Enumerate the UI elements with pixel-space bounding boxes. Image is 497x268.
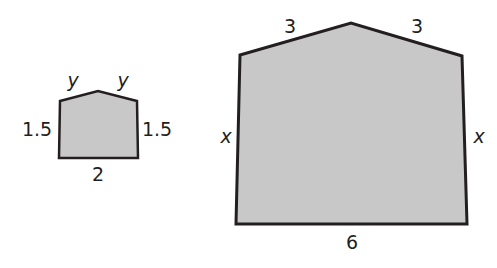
large-top-right-label: 3 bbox=[411, 15, 423, 37]
small-pentagon: y y 1.5 1.5 2 bbox=[22, 69, 172, 185]
small-bottom-label: 2 bbox=[92, 163, 104, 185]
small-pentagon-shape bbox=[59, 91, 138, 158]
large-right-label: x bbox=[472, 125, 485, 147]
small-top-left-label: y bbox=[66, 69, 79, 91]
similar-pentagons-diagram: y y 1.5 1.5 2 3 3 x x 6 bbox=[0, 0, 497, 268]
small-top-right-label: y bbox=[116, 69, 129, 91]
large-bottom-label: 6 bbox=[346, 231, 358, 253]
large-top-left-label: 3 bbox=[284, 15, 296, 37]
large-pentagon: 3 3 x x 6 bbox=[219, 15, 485, 253]
small-right-label: 1.5 bbox=[142, 118, 172, 140]
small-left-label: 1.5 bbox=[22, 118, 52, 140]
large-left-label: x bbox=[219, 125, 232, 147]
large-pentagon-shape bbox=[236, 23, 467, 224]
